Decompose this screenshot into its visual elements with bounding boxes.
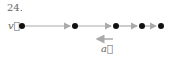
motion-diagram — [0, 0, 176, 60]
